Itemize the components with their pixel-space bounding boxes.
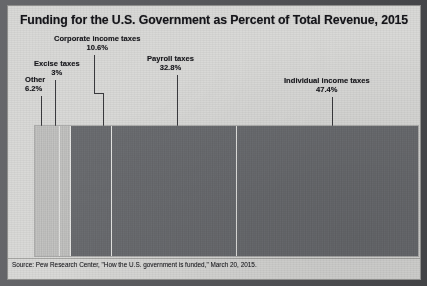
bar-segment-other[interactable] bbox=[35, 126, 59, 256]
bar-segment-payroll[interactable] bbox=[111, 126, 237, 256]
leader-line-excise bbox=[55, 80, 56, 126]
leader-line-corporate-upper bbox=[94, 55, 95, 93]
segment-label-individual: Individual income taxes 47.4% bbox=[284, 76, 370, 95]
chart-title: Funding for the U.S. Government as Perce… bbox=[8, 13, 420, 27]
segment-label-other: Other 6.2% bbox=[25, 75, 45, 94]
segment-label-corporate: Corporate income taxes 10.6% bbox=[54, 34, 141, 53]
leader-line-individual bbox=[332, 97, 333, 126]
leader-line-corporate-lower bbox=[103, 93, 104, 126]
segment-label-corporate-value: 10.6% bbox=[54, 43, 141, 52]
figure-frame: Funding for the U.S. Government as Perce… bbox=[0, 0, 427, 286]
segment-label-other-value: 6.2% bbox=[25, 84, 45, 93]
segment-label-payroll: Payroll taxes 32.8% bbox=[147, 54, 194, 73]
source-divider bbox=[8, 258, 420, 259]
source-note: Source: Pew Research Center, "How the U.… bbox=[12, 261, 257, 268]
leader-line-payroll bbox=[177, 75, 178, 126]
segment-label-payroll-name: Payroll taxes bbox=[147, 54, 194, 63]
segment-label-individual-value: 47.4% bbox=[284, 85, 370, 94]
bar-segment-excise[interactable] bbox=[59, 126, 70, 256]
chart-panel: Funding for the U.S. Government as Perce… bbox=[7, 5, 421, 280]
segment-label-excise-value: 3% bbox=[34, 68, 80, 77]
segment-label-excise-name: Excise taxes bbox=[34, 59, 80, 68]
stacked-bar bbox=[35, 126, 418, 256]
leader-line-other bbox=[41, 96, 42, 126]
bar-segment-individual[interactable] bbox=[236, 126, 418, 256]
bar-segment-corporate[interactable] bbox=[70, 126, 111, 256]
segment-label-individual-name: Individual income taxes bbox=[284, 76, 370, 85]
segment-label-payroll-value: 32.8% bbox=[147, 63, 194, 72]
segment-label-corporate-name: Corporate income taxes bbox=[54, 34, 141, 43]
segment-label-excise: Excise taxes 3% bbox=[34, 59, 80, 78]
